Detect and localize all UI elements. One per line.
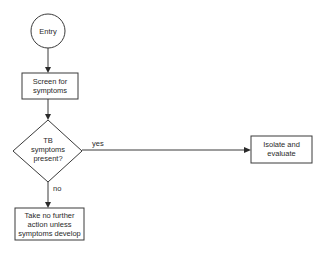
no-action-label-line2: action unless	[28, 220, 72, 229]
edge-decision-no: no	[45, 182, 61, 208]
arrow-down-icon	[45, 202, 51, 208]
edge-decision-yes: yes	[82, 139, 251, 153]
screen-label-line1: Screen for	[33, 77, 68, 86]
yes-label: yes	[92, 139, 104, 148]
isolate-label-line1: Isolate and	[263, 140, 300, 149]
arrow-down-icon	[45, 67, 51, 73]
screen-node: Screen for symptoms	[22, 73, 78, 99]
arrow-right-icon	[244, 147, 251, 153]
edge-screen-to-decision	[45, 99, 51, 120]
flowchart-canvas: Entry Screen for symptoms TB symptoms pr…	[0, 0, 329, 253]
entry-node: Entry	[31, 14, 65, 48]
edge-entry-to-screen	[45, 48, 51, 73]
decision-label-line1: TB	[43, 136, 53, 145]
decision-node: TB symptoms present?	[13, 120, 82, 182]
arrow-down-icon	[45, 114, 51, 120]
decision-label-line3: present?	[33, 154, 62, 163]
screen-label-line2: symptoms	[33, 86, 67, 95]
isolate-label-line2: evaluate	[267, 149, 295, 158]
no-action-node: Take no further action unless symptoms d…	[15, 208, 84, 240]
decision-label-line2: symptoms	[31, 145, 65, 154]
no-action-label-line3: symptoms develop	[18, 229, 81, 238]
isolate-node: Isolate and evaluate	[251, 136, 312, 163]
entry-label: Entry	[39, 27, 57, 36]
no-action-label-line1: Take no further	[24, 211, 75, 220]
no-label: no	[53, 184, 61, 193]
